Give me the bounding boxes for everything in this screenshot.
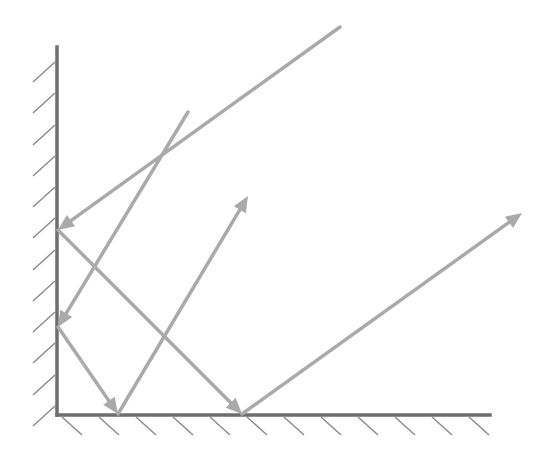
- hatch-mark: [62, 417, 82, 435]
- hatch-mark: [432, 417, 452, 435]
- hatch-mark: [469, 417, 489, 435]
- hatch-mark: [33, 187, 55, 207]
- ray-1: [58, 27, 522, 414]
- ray-segment: [58, 327, 112, 406]
- hatch-mark: [33, 250, 55, 270]
- hatch-mark: [284, 417, 304, 435]
- hatch-mark: [33, 281, 55, 301]
- hatch-mark: [33, 125, 55, 145]
- hatch-mark: [210, 417, 230, 435]
- hatch-mark: [33, 62, 55, 82]
- light-rays: [58, 27, 522, 414]
- hatch-mark: [33, 312, 55, 332]
- hatch-mark: [33, 218, 55, 238]
- hatch-mark: [99, 417, 119, 435]
- ray-segment: [63, 112, 188, 318]
- hatch-mark: [173, 417, 193, 435]
- corner-reflector-diagram: [0, 0, 548, 460]
- hatch-mark: [33, 156, 55, 176]
- hatch-mark: [33, 406, 55, 426]
- ray-segment: [242, 219, 514, 414]
- arrowhead-icon: [58, 215, 75, 230]
- ray-segment: [58, 230, 235, 407]
- arrowhead-icon: [505, 213, 522, 228]
- hatch-mark: [33, 93, 55, 113]
- hatch-mark: [321, 417, 341, 435]
- hatch-mark: [33, 375, 55, 395]
- ray-2: [58, 112, 248, 414]
- arrowhead-icon: [103, 397, 118, 414]
- hatch-mark: [136, 417, 156, 435]
- hatch-mark: [358, 417, 378, 435]
- ray-segment: [66, 27, 340, 224]
- horizontal-wall-hatching: [62, 417, 489, 435]
- vertical-wall-hatching: [33, 62, 55, 426]
- hatch-mark: [395, 417, 415, 435]
- hatch-mark: [33, 343, 55, 363]
- hatch-mark: [247, 417, 267, 435]
